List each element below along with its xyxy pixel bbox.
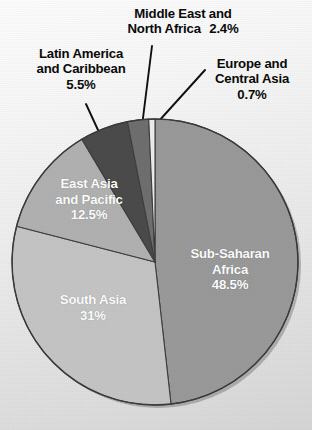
slice-percent-east-asia: 12.5% bbox=[32, 207, 146, 223]
slice-label-south-asia: South Asia 31% bbox=[30, 292, 156, 323]
slice-label-line1-south-asia: South Asia bbox=[30, 292, 156, 308]
callout-label-europe-and-central-asia: Europe and Central Asia 0.7% bbox=[196, 56, 308, 102]
callout-line2-middle-east: North Africa bbox=[127, 21, 200, 36]
slice-label-sub-saharan-africa: Sub-Saharan Africa 48.5% bbox=[168, 246, 292, 293]
slice-label-east-asia-and-pacific: East Asia and Pacific 12.5% bbox=[32, 176, 146, 223]
slice-label-line2-sub-saharan: Africa bbox=[168, 262, 292, 278]
slice-label-line1-sub-saharan: Sub-Saharan bbox=[168, 246, 292, 262]
callout-line1-middle-east: Middle East and bbox=[104, 6, 262, 21]
callout-line2-latin-america: and Caribbean bbox=[8, 61, 154, 76]
callout-percent-latin-america: 5.5% bbox=[8, 77, 154, 92]
slice-percent-sub-saharan: 48.5% bbox=[168, 277, 292, 293]
slice-label-line2-east-asia: and Pacific bbox=[32, 192, 146, 208]
callout-line2-europe: Central Asia bbox=[196, 71, 308, 86]
callout-label-middle-east-and-north-africa: Middle East and North Africa 2.4% bbox=[104, 6, 262, 37]
slice-label-line1-east-asia: East Asia bbox=[32, 176, 146, 192]
callout-line2-middle-east-with-percent: North Africa 2.4% bbox=[104, 21, 262, 36]
pie-chart-figure: Latin America and Caribbean 5.5% Middle … bbox=[0, 0, 312, 430]
callout-percent-middle-east: 2.4% bbox=[209, 21, 238, 36]
callout-percent-europe: 0.7% bbox=[196, 87, 308, 102]
callout-line1-europe: Europe and bbox=[196, 56, 308, 71]
slice-percent-south-asia: 31% bbox=[30, 308, 156, 324]
callout-label-latin-america-and-caribbean: Latin America and Caribbean 5.5% bbox=[8, 46, 154, 92]
callout-line1-latin-america: Latin America bbox=[8, 46, 154, 61]
